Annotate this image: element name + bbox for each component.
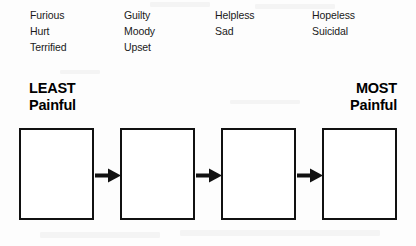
word-item: Hurt	[30, 23, 66, 39]
least-painful-heading: LEAST Painful	[29, 80, 76, 113]
scan-artifact	[180, 230, 380, 236]
answer-box-4[interactable]	[322, 128, 397, 220]
word-column-1: Furious Hurt Terrified	[30, 7, 66, 56]
word-column-3: Helpless Sad	[215, 7, 254, 39]
most-painful-heading: MOST Painful	[350, 80, 397, 113]
most-painful-line1: MOST	[356, 80, 397, 96]
word-item: Upset	[124, 39, 155, 55]
least-painful-line2: Painful	[29, 97, 76, 114]
scan-artifact	[60, 70, 100, 74]
answer-box-2[interactable]	[120, 128, 195, 220]
word-item: Guilty	[124, 7, 155, 23]
most-painful-line2: Painful	[350, 97, 397, 114]
scan-artifact	[230, 100, 300, 104]
word-column-2: Guilty Moody Upset	[124, 7, 155, 56]
word-item: Terrified	[30, 39, 66, 55]
right-arrow-icon	[196, 168, 222, 183]
scan-artifact	[40, 232, 160, 238]
answer-box-3[interactable]	[221, 128, 296, 220]
right-arrow-icon	[95, 168, 121, 183]
least-painful-line1: LEAST	[29, 80, 76, 96]
worksheet-canvas: Furious Hurt Terrified Guilty Moody Upse…	[0, 0, 416, 246]
scan-artifact	[150, 2, 210, 7]
word-item: Helpless	[215, 7, 254, 23]
answer-box-1[interactable]	[19, 128, 94, 220]
word-item: Hopeless	[312, 7, 355, 23]
word-item: Sad	[215, 23, 254, 39]
word-item: Moody	[124, 23, 155, 39]
word-item: Furious	[30, 7, 66, 23]
right-arrow-icon	[297, 168, 323, 183]
word-item: Suicidal	[312, 23, 355, 39]
word-column-4: Hopeless Suicidal	[312, 7, 355, 39]
